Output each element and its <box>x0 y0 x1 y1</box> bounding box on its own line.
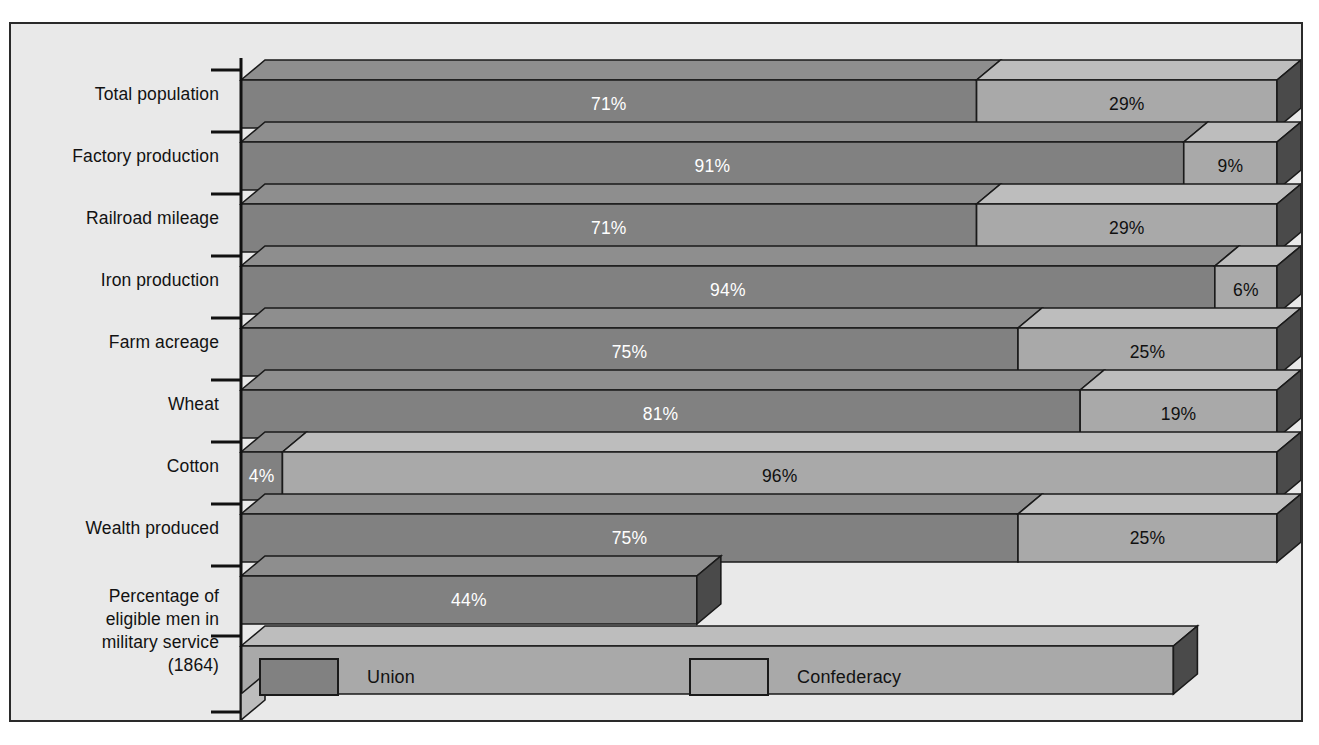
bar-face <box>241 494 1042 514</box>
bar-face <box>241 122 1208 142</box>
chart-frame: Total population Factory production Rail… <box>9 22 1303 722</box>
bar-face <box>241 370 1104 390</box>
value-label-union-8: 44% <box>451 590 487 611</box>
value-label-union-0: 71% <box>591 94 627 115</box>
value-label-union-4: 75% <box>612 342 648 363</box>
value-label-confederacy-6: 96% <box>762 466 798 487</box>
value-label-union-2: 71% <box>591 218 627 239</box>
value-label-confederacy-2: 29% <box>1109 218 1145 239</box>
legend-swatch-confederacy-icon <box>689 658 769 696</box>
value-label-union-5: 81% <box>643 404 679 425</box>
plot-area: Total population Factory production Rail… <box>11 24 1301 720</box>
bar-face <box>241 308 1042 328</box>
bar-face <box>282 432 1301 452</box>
bar-face <box>977 60 1301 80</box>
value-label-union-1: 91% <box>695 156 731 177</box>
legend-swatch-union-icon <box>259 658 339 696</box>
bar-face <box>241 184 1001 204</box>
bar-face <box>241 556 721 576</box>
value-label-confederacy-7: 25% <box>1130 528 1166 549</box>
bar-face <box>1080 370 1301 390</box>
bar-face <box>1018 308 1301 328</box>
value-label-confederacy-3: 6% <box>1233 280 1259 301</box>
legend-label-confederacy: Confederacy <box>797 667 901 688</box>
value-label-union-7: 75% <box>612 528 648 549</box>
bars-group <box>11 24 1301 720</box>
bar-face <box>1018 494 1301 514</box>
bar-face <box>977 184 1301 204</box>
bar-face <box>241 60 1001 80</box>
value-label-confederacy-1: 9% <box>1218 156 1244 177</box>
value-label-union-6: 4% <box>249 466 275 487</box>
value-label-confederacy-5: 19% <box>1161 404 1197 425</box>
legend-label-union: Union <box>367 667 415 688</box>
chart-legend: Union Confederacy <box>11 658 1301 698</box>
value-label-confederacy-0: 29% <box>1109 94 1145 115</box>
bar-face <box>241 626 1197 646</box>
value-label-confederacy-4: 25% <box>1130 342 1166 363</box>
legend-item-confederacy: Confederacy <box>689 658 901 696</box>
bar-face <box>241 246 1239 266</box>
legend-item-union: Union <box>259 658 415 696</box>
value-label-union-3: 94% <box>710 280 746 301</box>
